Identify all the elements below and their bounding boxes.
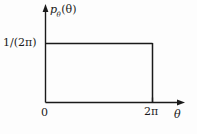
- y-tick-label-height: 1/(2π): [3, 37, 37, 48]
- y-axis: [43, 4, 49, 103]
- x-axis-arrowhead: [177, 100, 185, 106]
- y-axis-label-argument: (θ): [61, 3, 76, 16]
- x-tick-label-origin: 0: [41, 107, 48, 118]
- x-axis: [46, 100, 186, 106]
- y-axis-label: pθ(θ): [50, 4, 76, 18]
- y-axis-label-subscript: θ: [57, 11, 61, 19]
- plot-canvas: [0, 0, 197, 134]
- uniform-density-figure: pθ(θ) 1/(2π) 0 2π θ: [0, 0, 197, 134]
- y-axis-arrowhead: [43, 4, 49, 12]
- y-axis-label-base: p: [50, 3, 57, 16]
- x-tick-label-twopi: 2π: [144, 106, 158, 117]
- density-curve: [46, 43, 153, 103]
- x-axis-label: θ: [174, 109, 181, 120]
